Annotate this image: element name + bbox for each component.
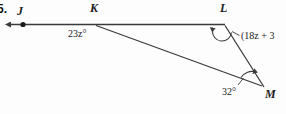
point-j-dot (20, 22, 25, 27)
geometry-figure: 5. J K L M 23z° (18z + 3 32° (0, 0, 286, 114)
point-label-l: L (220, 2, 228, 14)
angle-measure-m: 32° (222, 87, 236, 97)
point-label-j: J (17, 5, 23, 17)
angle-measure-l: (18z + 3 (241, 31, 274, 41)
problem-number: 5. (0, 3, 7, 15)
figure-drawing (0, 0, 286, 114)
point-label-m: M (265, 88, 276, 100)
angle-arc-m (241, 71, 256, 77)
angle-measure-k: 23z° (68, 29, 86, 39)
leader-line-angle-m (238, 78, 244, 85)
point-label-k: K (90, 2, 98, 14)
leader-line-angle-l (232, 32, 240, 36)
